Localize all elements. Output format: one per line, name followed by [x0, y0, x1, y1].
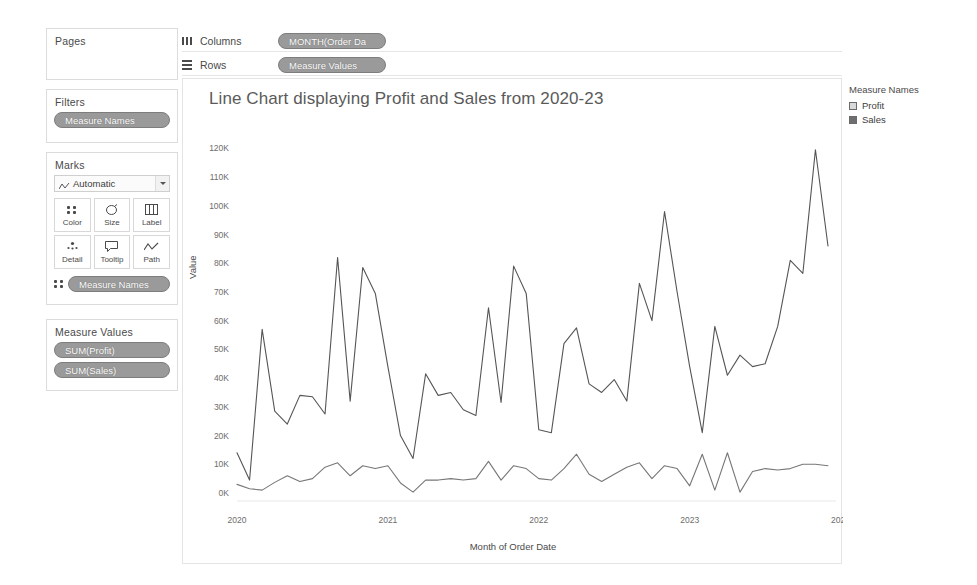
svg-text:20K: 20K	[214, 431, 229, 441]
x-axis-title: Month of Order Date	[183, 541, 843, 552]
left-shelf-panel: Pages Filters Measure Names Marks Automa…	[46, 28, 178, 388]
svg-text:0K: 0K	[219, 488, 230, 498]
rows-shelf[interactable]: Rows Measure Values	[182, 54, 842, 76]
columns-shelf-label: Columns	[200, 35, 278, 47]
marks-card-title: Marks	[47, 153, 177, 175]
marks-path-button[interactable]: Path	[133, 235, 170, 269]
pages-card-title: Pages	[47, 29, 177, 51]
marks-tooltip-button[interactable]: Tooltip	[94, 235, 131, 269]
measure-values-title: Measure Values	[47, 320, 177, 342]
measure-value-pill-sales[interactable]: SUM(Sales)	[54, 362, 170, 378]
line-chart-svg: 0K10K20K30K40K50K60K70K80K90K100K110K120…	[183, 79, 843, 565]
legend-swatch-sales	[849, 116, 857, 124]
marks-path-label: Path	[143, 255, 159, 264]
svg-text:2021: 2021	[378, 515, 397, 525]
label-icon	[144, 203, 160, 216]
color-icon	[54, 280, 64, 288]
svg-text:2022: 2022	[529, 515, 548, 525]
marks-color-button[interactable]: Color	[54, 198, 91, 232]
tableau-worksheet: Pages Filters Measure Names Marks Automa…	[0, 0, 977, 585]
filters-card-title: Filters	[47, 90, 177, 112]
columns-pill-month-order-date[interactable]: MONTH(Order Da	[278, 33, 386, 49]
size-icon	[104, 203, 120, 216]
legend-measure-names: Measure Names Profit Sales	[849, 84, 971, 128]
rows-shelf-label: Rows	[200, 59, 278, 71]
pages-card[interactable]: Pages	[46, 28, 178, 80]
legend-label-sales: Sales	[862, 114, 886, 125]
svg-text:40K: 40K	[214, 373, 229, 383]
path-icon	[144, 240, 160, 253]
svg-text:110K: 110K	[210, 172, 230, 182]
filter-pill-measure-names[interactable]: Measure Names	[54, 112, 170, 128]
marks-tooltip-label: Tooltip	[100, 255, 123, 264]
marks-card: Marks Automatic Color	[46, 152, 178, 305]
y-axis-title: Value	[187, 255, 198, 279]
legend-title: Measure Names	[849, 84, 971, 95]
marks-label-label: Label	[142, 218, 162, 227]
measure-values-card: Measure Values SUM(Profit) SUM(Sales)	[46, 319, 178, 391]
rows-pill-measure-values[interactable]: Measure Values	[278, 57, 386, 73]
mark-type-label: Automatic	[73, 178, 115, 189]
svg-text:2023: 2023	[680, 515, 699, 525]
svg-text:2020: 2020	[228, 515, 247, 525]
svg-text:30K: 30K	[214, 402, 229, 412]
mark-type-dropdown[interactable]: Automatic	[54, 175, 170, 192]
svg-text:100K: 100K	[209, 201, 229, 211]
detail-icon	[64, 240, 80, 253]
svg-text:70K: 70K	[214, 287, 229, 297]
svg-text:60K: 60K	[214, 316, 229, 326]
svg-text:90K: 90K	[214, 230, 229, 240]
plot-area[interactable]: 0K10K20K30K40K50K60K70K80K90K100K110K120…	[183, 79, 843, 565]
marks-size-label: Size	[104, 218, 120, 227]
svg-text:50K: 50K	[214, 344, 229, 354]
filters-card[interactable]: Filters Measure Names	[46, 89, 178, 143]
marks-detail-label: Detail	[62, 255, 82, 264]
chevron-down-icon[interactable]	[155, 176, 169, 191]
legend-swatch-profit	[849, 102, 857, 110]
marks-encoding-pill-measure-names[interactable]: Measure Names	[68, 276, 170, 292]
marks-color-label: Color	[63, 218, 82, 227]
mark-encoding-grid: Color Size Label	[54, 198, 170, 269]
svg-text:10K: 10K	[214, 459, 229, 469]
columns-icon	[182, 36, 195, 46]
line-mark-icon	[59, 180, 70, 189]
marks-detail-button[interactable]: Detail	[54, 235, 91, 269]
measure-value-pill-profit[interactable]: SUM(Profit)	[54, 342, 170, 358]
svg-text:80K: 80K	[214, 258, 229, 268]
color-icon	[64, 203, 80, 216]
chart-view: Line Chart displaying Profit and Sales f…	[182, 78, 842, 564]
marks-label-button[interactable]: Label	[133, 198, 170, 232]
marks-color-encoding-row: Measure Names	[54, 276, 170, 292]
legend-item-sales[interactable]: Sales	[849, 114, 971, 125]
legend-item-profit[interactable]: Profit	[849, 100, 971, 111]
columns-shelf[interactable]: Columns MONTH(Order Da	[182, 30, 842, 52]
tooltip-icon	[104, 240, 120, 253]
svg-text:120K: 120K	[209, 143, 229, 153]
legend-label-profit: Profit	[862, 100, 884, 111]
rows-icon	[182, 60, 195, 70]
svg-text:2024: 2024	[831, 515, 843, 525]
marks-size-button[interactable]: Size	[94, 198, 131, 232]
